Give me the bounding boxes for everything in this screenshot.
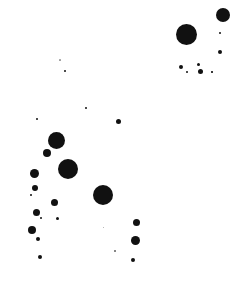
ink-dot [33, 209, 40, 216]
ink-dot [114, 250, 115, 251]
ink-dot [133, 219, 140, 226]
ink-dot [36, 118, 38, 120]
ink-dot [36, 237, 40, 241]
ink-dot [93, 185, 113, 205]
ink-dot [131, 236, 140, 245]
ink-dot [85, 107, 87, 109]
ink-dot [58, 159, 78, 179]
ink-dot [198, 69, 203, 74]
ink-dot [197, 63, 200, 66]
ink-dot [48, 132, 65, 149]
ink-dot [131, 258, 135, 262]
ink-dot [176, 24, 197, 45]
ink-dot [40, 217, 42, 219]
ink-dot [64, 70, 66, 72]
ink-dot [30, 194, 32, 196]
ink-dot [186, 71, 188, 73]
ink-dot [38, 255, 42, 259]
ink-dot [211, 71, 213, 73]
ink-dot [103, 227, 104, 228]
ink-dot [56, 217, 59, 220]
ink-dot [116, 119, 121, 124]
ink-dot [216, 8, 230, 22]
ink-dot [28, 226, 36, 234]
ink-dot [32, 185, 38, 191]
ink-splatter-image [0, 0, 248, 287]
ink-dot [51, 199, 58, 206]
ink-dot [179, 65, 183, 69]
ink-dot [59, 59, 60, 60]
ink-dot [30, 169, 39, 178]
ink-dot [43, 149, 51, 157]
ink-dot [219, 32, 221, 34]
ink-dot [218, 50, 222, 54]
